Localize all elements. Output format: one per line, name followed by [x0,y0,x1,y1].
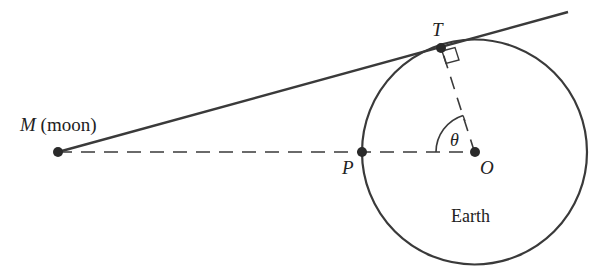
tangent-line-MT [58,12,568,152]
label-theta: θ [450,130,459,150]
label-M-moon: M (moon) [19,114,97,136]
point-O [470,147,480,157]
label-P: P [341,157,354,178]
point-P [357,147,367,157]
point-M [53,147,63,157]
label-O: O [480,157,494,178]
point-T [436,43,446,53]
label-T: T [432,19,444,40]
label-earth: Earth [451,206,490,226]
theta-arc-arrowhead [463,116,465,122]
moon-earth-tangent-diagram: M (moon) T P O θ Earth [0,0,600,274]
label-M: M [19,114,37,135]
label-moon: (moon) [36,114,97,136]
